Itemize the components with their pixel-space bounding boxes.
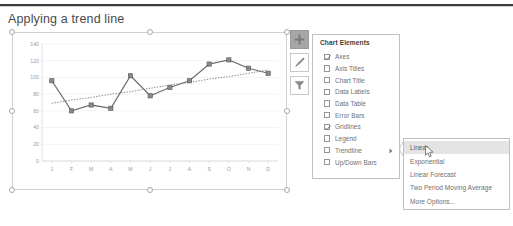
- chart-element-label: Up/Down Bars: [335, 159, 377, 166]
- checkbox-unchecked[interactable]: [324, 159, 330, 165]
- chart-element-label: Gridlines: [335, 123, 361, 130]
- trendline-path: [52, 70, 268, 103]
- chart-styles-button[interactable]: [290, 53, 309, 72]
- svg-text:120: 120: [30, 58, 39, 64]
- trendline-submenu-item[interactable]: Linear Forecast: [404, 168, 509, 181]
- chart-elements-list: AxesAxis TitlesChart TitleData LabelsDat…: [313, 51, 399, 168]
- chart-element-item[interactable]: Data Table: [313, 98, 399, 110]
- chart-element-item[interactable]: Legend: [313, 133, 399, 145]
- checkbox-checked[interactable]: [324, 54, 330, 60]
- svg-text:J: J: [51, 166, 54, 172]
- checkbox-unchecked[interactable]: [324, 65, 330, 71]
- resize-handle-bottom-left[interactable]: [9, 187, 15, 193]
- chart-element-label: Chart Title: [335, 77, 365, 84]
- top-divider-shadow: [0, 6, 513, 7]
- svg-text:O: O: [227, 166, 231, 172]
- funnel-icon: [291, 77, 308, 94]
- resize-handle-middle-left[interactable]: [9, 108, 15, 114]
- checkbox-unchecked[interactable]: [324, 147, 330, 153]
- resize-handle-top-center[interactable]: [147, 29, 153, 35]
- chart-element-item[interactable]: Gridlines: [313, 121, 399, 133]
- data-point-marker: [69, 109, 73, 113]
- data-point-marker: [148, 94, 152, 98]
- svg-text:60: 60: [33, 108, 39, 114]
- trendline-submenu-item[interactable]: Linear: [404, 141, 509, 154]
- checkbox-unchecked[interactable]: [324, 112, 330, 118]
- svg-text:140: 140: [30, 41, 39, 47]
- svg-text:N: N: [247, 166, 251, 172]
- check-icon: [324, 124, 332, 132]
- check-icon: [324, 54, 332, 62]
- series-path: [52, 60, 268, 111]
- chart-element-item[interactable]: Error Bars: [313, 109, 399, 121]
- chart-element-item[interactable]: Data Labels: [313, 86, 399, 98]
- resize-handle-bottom-center[interactable]: [147, 187, 153, 193]
- svg-text:40: 40: [33, 124, 39, 130]
- chart-element-label: Legend: [335, 135, 357, 142]
- svg-text:M: M: [89, 166, 93, 172]
- svg-text:J: J: [169, 166, 172, 172]
- chart-elements-title: Chart Elements: [320, 39, 370, 46]
- checkbox-checked[interactable]: [324, 124, 330, 130]
- svg-text:J: J: [149, 166, 152, 172]
- checkbox-unchecked[interactable]: [324, 89, 330, 95]
- chart-element-label: Data Labels: [335, 88, 370, 95]
- chart-element-label: Error Bars: [335, 112, 365, 119]
- chart-elements-button[interactable]: [290, 30, 309, 49]
- chart-element-item[interactable]: Trendline: [313, 145, 399, 157]
- data-point-marker: [246, 66, 250, 70]
- data-point-marker: [109, 106, 113, 110]
- chart-element-item[interactable]: Up/Down Bars: [313, 156, 399, 168]
- trendline-submenu-item[interactable]: Exponential: [404, 154, 509, 167]
- data-point-marker: [207, 62, 211, 66]
- resize-handle-bottom-right[interactable]: [284, 187, 290, 193]
- chart-quick-buttons: [290, 30, 309, 99]
- svg-text:0: 0: [36, 158, 39, 164]
- chart-element-item[interactable]: Axes: [313, 51, 399, 63]
- data-point-marker: [89, 103, 93, 107]
- svg-text:80: 80: [33, 91, 39, 97]
- chevron-right-icon: [389, 148, 393, 154]
- svg-text:S: S: [207, 166, 211, 172]
- line-chart-svg: 020406080100120140JFMAMJJASOND: [12, 32, 287, 190]
- svg-text:20: 20: [33, 141, 39, 147]
- svg-text:M: M: [128, 166, 132, 172]
- trendline-submenu-item[interactable]: Two Period Moving Average: [404, 181, 509, 194]
- svg-text:D: D: [266, 166, 270, 172]
- chart-plot-area: 020406080100120140JFMAMJJASOND: [12, 32, 287, 190]
- data-point-marker: [266, 71, 270, 75]
- svg-text:100: 100: [30, 74, 39, 80]
- resize-handle-top-left[interactable]: [9, 29, 15, 35]
- resize-handle-middle-right[interactable]: [284, 108, 290, 114]
- trendline-submenu: LinearExponentialLinear ForecastTwo Peri…: [403, 138, 510, 210]
- chart-element-label: Axis Titles: [335, 65, 364, 72]
- chart-element-label: Axes: [335, 53, 349, 60]
- plus-icon: [291, 31, 308, 48]
- checkbox-unchecked[interactable]: [324, 135, 330, 141]
- checkbox-unchecked[interactable]: [324, 77, 330, 83]
- svg-text:A: A: [109, 166, 113, 172]
- data-point-marker: [128, 74, 132, 78]
- chart-elements-panel: Chart Elements AxesAxis TitlesChart Titl…: [312, 34, 400, 179]
- trendline-submenu-item[interactable]: More Options...: [404, 195, 509, 208]
- checkbox-unchecked[interactable]: [324, 100, 330, 106]
- chart-element-item[interactable]: Axis Titles: [313, 63, 399, 75]
- chart-object[interactable]: 020406080100120140JFMAMJJASOND: [12, 32, 287, 190]
- brush-icon: [291, 54, 308, 71]
- chart-element-item[interactable]: Chart Title: [313, 74, 399, 86]
- data-point-marker: [227, 58, 231, 62]
- chart-element-label: Data Table: [335, 100, 366, 107]
- chart-filters-button[interactable]: [290, 76, 309, 95]
- data-point-marker: [168, 85, 172, 89]
- svg-text:A: A: [188, 166, 192, 172]
- page-title: Applying a trend line: [8, 12, 124, 26]
- chart-element-label: Trendline: [335, 147, 362, 154]
- svg-text:F: F: [70, 166, 73, 172]
- data-point-marker: [50, 79, 54, 83]
